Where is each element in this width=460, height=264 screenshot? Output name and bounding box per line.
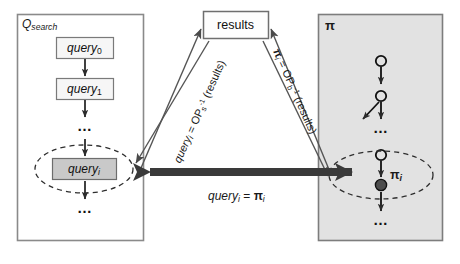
left-dots-lower-text: … <box>77 199 93 216</box>
query-i-main: query <box>68 162 98 176</box>
right-dots-lower-text: … <box>373 211 389 228</box>
center-equivalence-label: queryi = πi <box>208 190 265 204</box>
query-0-main: query <box>67 41 97 55</box>
left-diagonal-edge-up <box>141 29 201 168</box>
left-panel-title-sub: search <box>31 22 57 32</box>
center-pi-sub: i <box>263 194 265 204</box>
plan-node-2[interactable] <box>376 91 386 101</box>
left-dots-upper-text: … <box>77 117 93 134</box>
right-panel-title-main: π <box>325 18 335 33</box>
query-1-label[interactable]: query1 <box>56 79 113 99</box>
left-panel-title: Qsearch <box>22 18 57 32</box>
query-0-label[interactable]: query0 <box>56 38 113 58</box>
right-panel-title: π <box>325 19 335 32</box>
left-dots-lower: … <box>77 199 93 216</box>
pi-i-sub: i <box>400 173 403 183</box>
query-i-label[interactable]: queryi <box>52 159 116 179</box>
pi-i-main: π <box>390 168 400 182</box>
plan-node-pi-i[interactable] <box>375 179 386 190</box>
query-1-sub: 1 <box>97 86 102 96</box>
plan-node-1[interactable] <box>376 56 386 66</box>
diagram-canvas: Qsearch π results query0 query1 … queryi… <box>0 0 460 264</box>
pi-i-node-label: πi <box>390 169 402 183</box>
left-panel-title-main: Q <box>22 17 31 31</box>
right-dots-upper: … <box>373 119 389 136</box>
query-1-main: query <box>67 82 97 96</box>
left-dots-upper: … <box>77 117 93 134</box>
right-dots-upper-text: … <box>373 119 389 136</box>
center-pi: π <box>254 189 263 203</box>
query-0-sub: 0 <box>97 45 102 55</box>
right-dots-lower: … <box>373 211 389 228</box>
query-i-sub: i <box>98 166 100 176</box>
results-box-text: results <box>217 18 254 32</box>
results-box-label[interactable]: results <box>203 12 268 38</box>
center-eq: = <box>240 189 254 203</box>
center-query: query <box>208 189 238 203</box>
